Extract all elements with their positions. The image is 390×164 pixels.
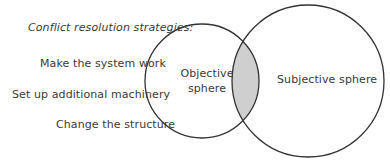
objective-label-line2: sphere [172, 81, 242, 96]
strategy-make-system-work: Make the system work [40, 57, 166, 70]
strategies-heading: Conflict resolution strategies: [28, 21, 193, 34]
objective-sphere-label: Objective sphere [172, 66, 242, 96]
strategy-additional-machinery: Set up additional machinery [12, 88, 170, 101]
subjective-sphere-label: Subjective sphere [277, 73, 377, 86]
strategy-change-structure: Change the structure [56, 118, 175, 131]
objective-label-line1: Objective [172, 66, 242, 81]
